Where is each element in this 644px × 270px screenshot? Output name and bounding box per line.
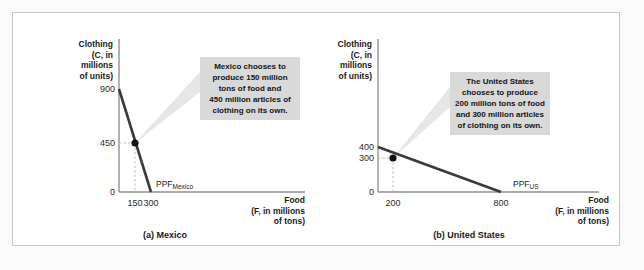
us-production-point [389,154,396,161]
mexico-production-point [131,139,138,146]
mexico-x-axis-title: Food (F, in millions of tons) [209,195,305,227]
us-callout-box: The United States chooses to produce 200… [450,72,550,135]
us-ppf-label-main: PPF [513,179,530,189]
mexico-y-tick-450: 450 [85,138,115,148]
us-y-tick-0: 0 [344,187,374,197]
panel-us: Clothing (C, in millions of units) 400 3… [317,13,621,247]
us-callout-pointer [393,87,450,158]
figure-frame: Clothing (C, in millions of units) 900 4… [12,12,620,246]
panel-mexico: Clothing (C, in millions of units) 900 4… [13,13,317,247]
figure-root: Clothing (C, in millions of units) 900 4… [0,0,644,270]
mexico-y-tick-900: 900 [85,84,115,94]
us-ppf-line [378,147,501,192]
mexico-y-tick-0: 0 [85,187,115,197]
mexico-callout-text: Mexico chooses to produce 150 million to… [209,61,290,116]
us-ppf-label: PPFUS [513,179,539,189]
us-y-tick-300: 300 [344,153,374,163]
mexico-panel-caption: (a) Mexico [13,230,317,240]
us-ppf-label-subscript: US [530,183,539,190]
mexico-y-axis-title: Clothing (C, in millions of units) [51,39,113,81]
mexico-ppf-label: PPFMexico [156,179,193,189]
mexico-ppf-label-subscript: Mexico [173,183,194,190]
us-x-tick-200: 200 [377,198,409,208]
mexico-x-tick-300: 300 [135,198,167,208]
us-x-axis-title: Food (F, in millions of tons) [513,195,609,227]
us-y-axis-title: Clothing (C, in millions of units) [310,39,372,81]
us-callout-text: The United States chooses to produce 200… [455,76,545,131]
us-panel-caption: (b) United States [317,230,621,240]
us-y-tick-400: 400 [344,142,374,152]
mexico-callout-pointer [135,72,200,143]
mexico-ppf-label-main: PPF [156,179,173,189]
mexico-callout-box: Mexico chooses to produce 150 million to… [200,57,300,120]
